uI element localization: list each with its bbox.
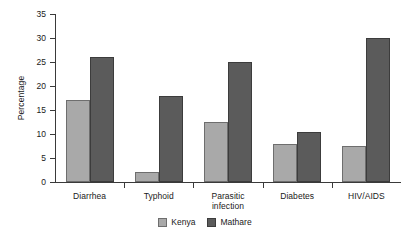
y-tick-label-5: 5 xyxy=(22,154,46,162)
y-tick-label-0: 0 xyxy=(22,178,46,186)
bar-mathare-4 xyxy=(366,38,390,182)
bar-kenya-2 xyxy=(204,122,228,182)
bar-mathare-1 xyxy=(159,96,183,182)
y-tick-35 xyxy=(50,14,55,15)
legend-swatch-mathare xyxy=(207,218,216,227)
bar-kenya-3 xyxy=(273,144,297,182)
y-tick-5 xyxy=(50,158,55,159)
y-tick-0 xyxy=(50,182,55,183)
y-tick-20 xyxy=(50,86,55,87)
x-label-line1: Parasitic xyxy=(193,191,262,201)
x-tick-3 xyxy=(263,183,264,188)
bar-mathare-0 xyxy=(90,57,114,182)
bar-chart: Percentage 05101520253035 DiarrheaTyphoi… xyxy=(0,0,410,241)
bar-mathare-2 xyxy=(228,62,252,182)
legend-label-mathare: Mathare xyxy=(220,218,251,227)
x-axis-label-4: HIV/AIDS xyxy=(332,191,401,201)
x-label-line1: Typhoid xyxy=(124,191,193,201)
x-axis-line xyxy=(55,182,401,183)
y-tick-label-10: 10 xyxy=(22,130,46,138)
x-tick-4 xyxy=(332,183,333,188)
y-tick-label-35: 35 xyxy=(22,10,46,18)
x-tick-1 xyxy=(124,183,125,188)
legend-item-kenya: Kenya xyxy=(158,218,195,227)
y-tick-label-30: 30 xyxy=(22,34,46,42)
y-tick-label-25: 25 xyxy=(22,58,46,66)
bar-kenya-1 xyxy=(135,172,159,182)
legend-label-kenya: Kenya xyxy=(171,218,195,227)
x-label-line1: Diabetes xyxy=(263,191,332,201)
x-axis-label-1: Typhoid xyxy=(124,191,193,201)
x-axis-label-0: Diarrhea xyxy=(55,191,124,201)
x-label-line2: infection xyxy=(193,201,262,211)
x-tick-2 xyxy=(193,183,194,188)
legend-item-mathare: Mathare xyxy=(207,218,251,227)
legend-swatch-kenya xyxy=(158,218,167,227)
bar-kenya-4 xyxy=(342,146,366,182)
x-label-line1: Diarrhea xyxy=(55,191,124,201)
x-axis-label-3: Diabetes xyxy=(263,191,332,201)
bar-mathare-3 xyxy=(297,132,321,182)
y-tick-label-20: 20 xyxy=(22,82,46,90)
bar-kenya-0 xyxy=(66,100,90,182)
y-tick-label-15: 15 xyxy=(22,106,46,114)
x-axis-label-2: Parasiticinfection xyxy=(193,191,262,211)
y-tick-15 xyxy=(50,110,55,111)
y-tick-10 xyxy=(50,134,55,135)
x-label-line1: HIV/AIDS xyxy=(332,191,401,201)
y-tick-25 xyxy=(50,62,55,63)
chart-legend: KenyaMathare xyxy=(0,218,410,227)
y-axis-line xyxy=(55,14,56,183)
y-tick-30 xyxy=(50,38,55,39)
